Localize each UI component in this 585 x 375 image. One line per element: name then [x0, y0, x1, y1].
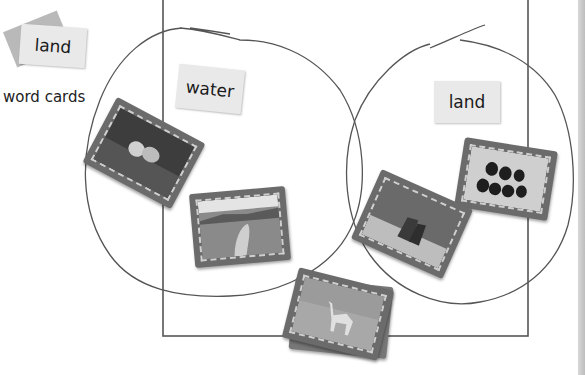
word-card-sample[interactable]: land [19, 24, 88, 69]
water-label: water [185, 77, 235, 102]
land-label-card[interactable]: land [434, 81, 500, 123]
whale-photo-card[interactable] [189, 186, 291, 268]
whale-photo [195, 192, 284, 261]
word-cards-caption: word cards [3, 88, 85, 106]
snake-photo [461, 144, 551, 214]
word-card-sample-label: land [34, 35, 72, 58]
water-label-card[interactable]: water [175, 64, 245, 115]
camel-photo [289, 274, 387, 353]
land-label: land [449, 92, 486, 112]
